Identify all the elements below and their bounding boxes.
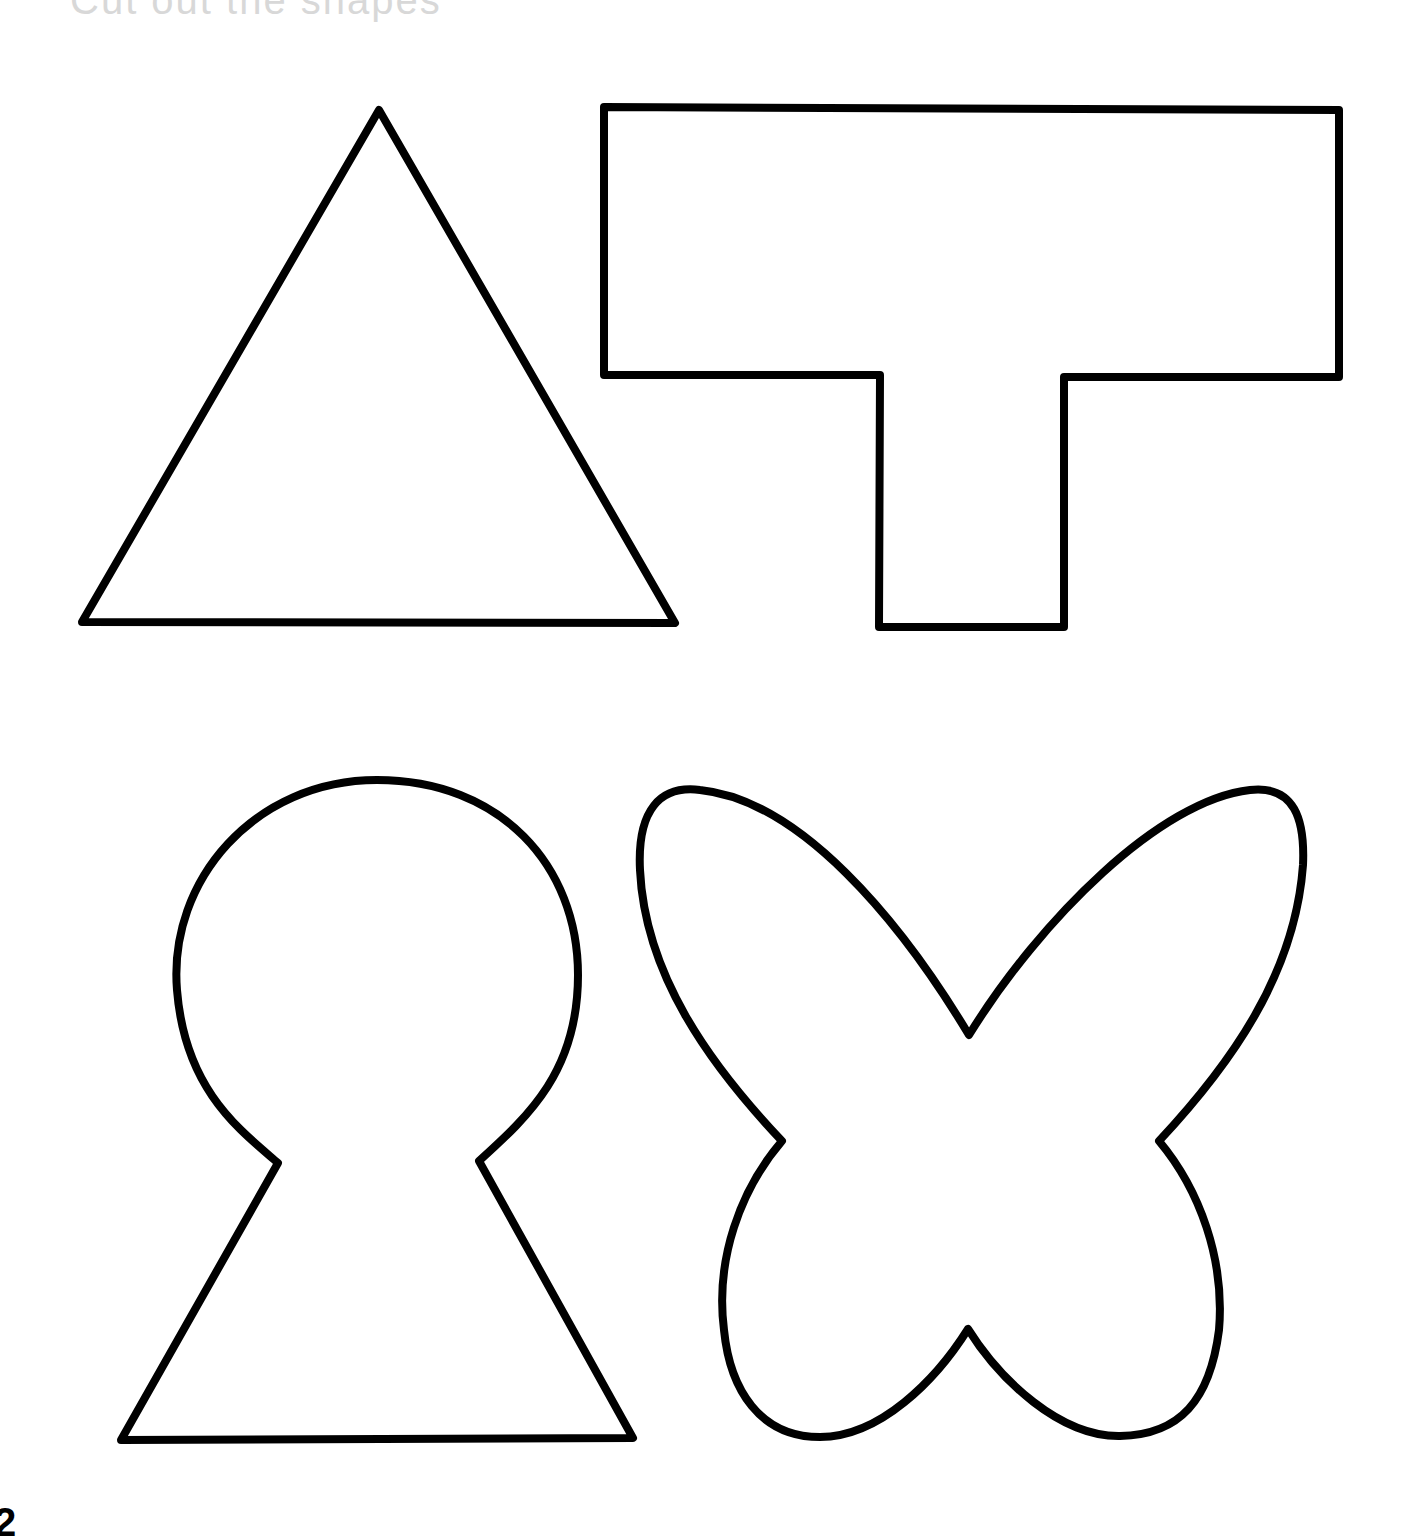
triangle-shape <box>82 110 675 623</box>
page-number: 2 <box>0 1500 16 1540</box>
keyhole-shape <box>121 780 633 1440</box>
butterfly-shape <box>640 789 1303 1437</box>
t-shape <box>604 107 1339 627</box>
